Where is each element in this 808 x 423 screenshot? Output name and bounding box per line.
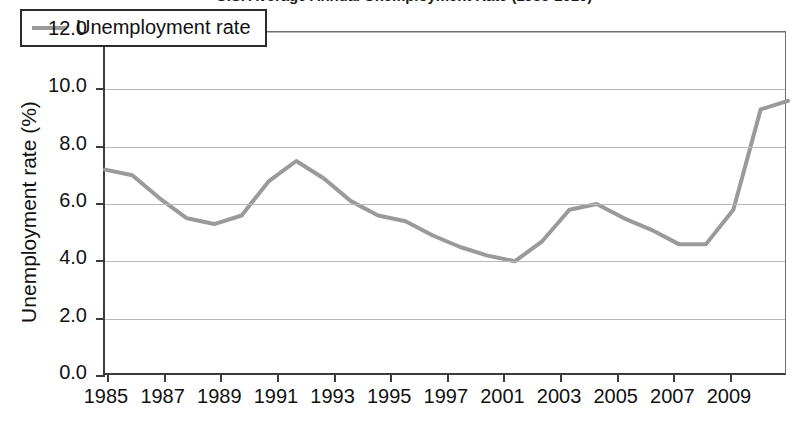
plot-area <box>103 31 786 375</box>
y-axis-tick <box>96 318 105 320</box>
x-axis-tick-label: 2007 <box>650 385 695 408</box>
y-axis-tick-label: 6.0 <box>25 189 87 212</box>
y-axis-tick <box>96 203 105 205</box>
x-axis-tick <box>503 373 505 382</box>
x-axis-tick <box>334 373 336 382</box>
unemployment-rate-line-chart: U.S. Average Annual Unemployment Rate (1… <box>0 0 808 423</box>
y-axis-tick-label: 2.0 <box>25 304 87 327</box>
x-axis-tick <box>277 373 279 382</box>
x-axis-tick-label: 1985 <box>84 385 129 408</box>
y-axis-tick <box>96 375 105 377</box>
gridline <box>105 89 785 90</box>
gridline <box>105 147 785 148</box>
y-axis-tick-label: 10.0 <box>25 74 87 97</box>
x-axis-tick-label: 2001 <box>480 385 525 408</box>
gridline <box>105 261 785 262</box>
x-axis-tick <box>673 373 675 382</box>
x-axis-tick-label: 1989 <box>197 385 242 408</box>
x-axis-tick <box>560 373 562 382</box>
chart-title: U.S. Average Annual Unemployment Rate (1… <box>0 0 808 4</box>
x-axis-tick <box>164 373 166 382</box>
x-axis-tick <box>390 373 392 382</box>
gridline <box>105 204 785 205</box>
legend-label: Unemployment rate <box>76 16 251 39</box>
y-axis-tick-label: 0.0 <box>25 361 87 384</box>
x-axis-tick-label: 1991 <box>254 385 299 408</box>
x-axis-tick-label: 1995 <box>367 385 412 408</box>
y-axis-tick-label: 12.0 <box>25 17 87 40</box>
gridline <box>105 319 785 320</box>
y-axis-tick <box>96 146 105 148</box>
y-axis-tick <box>96 88 105 90</box>
x-axis-tick <box>730 373 732 382</box>
x-axis-tick <box>447 373 449 382</box>
x-axis-tick <box>617 373 619 382</box>
x-axis-tick-label: 2003 <box>537 385 582 408</box>
x-axis-tick <box>220 373 222 382</box>
y-axis-tick-label: 8.0 <box>25 132 87 155</box>
x-axis-tick-label: 2005 <box>593 385 638 408</box>
series-line <box>105 101 788 262</box>
x-axis-tick-label: 1993 <box>310 385 355 408</box>
x-axis-tick-label: 1997 <box>424 385 469 408</box>
x-axis-tick <box>107 373 109 382</box>
y-axis-tick-label: 4.0 <box>25 246 87 269</box>
y-axis-tick <box>96 260 105 262</box>
x-axis-tick-label: 1987 <box>140 385 185 408</box>
x-axis-tick-label: 2009 <box>707 385 752 408</box>
